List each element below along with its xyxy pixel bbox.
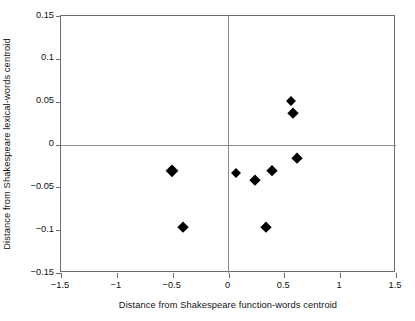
x-axis-title: Distance from Shakespeare function-words… — [60, 300, 396, 310]
x-tick-label: −0.5 — [152, 280, 192, 291]
data-point-marker — [165, 165, 178, 178]
x-tick-mark — [284, 273, 285, 278]
y-tick-label: 0 — [10, 138, 54, 149]
x-tick-label: 0 — [208, 280, 248, 291]
y-tick-label: −0.1 — [10, 224, 54, 235]
data-point-marker — [231, 168, 241, 178]
x-tick-label: 1 — [319, 280, 359, 291]
y-tick-label: 0.05 — [10, 95, 54, 106]
y-tick-mark — [56, 187, 61, 188]
data-point-marker — [250, 174, 261, 185]
y-tick-label: 0.15 — [10, 10, 54, 21]
x-tick-label: −1.5 — [40, 280, 80, 291]
data-point-marker — [177, 221, 188, 232]
plot-area — [60, 15, 395, 272]
x-tick-mark — [117, 273, 118, 278]
y-tick-mark — [56, 145, 61, 146]
x-tick-mark — [229, 273, 230, 278]
x-tick-mark — [340, 273, 341, 278]
x-tick-label: −1 — [96, 280, 136, 291]
y-tick-mark — [56, 230, 61, 231]
zero-line-horizontal — [61, 145, 396, 146]
y-tick-mark — [56, 16, 61, 17]
y-tick-label: 0.1 — [10, 52, 54, 63]
x-tick-label: 0.5 — [263, 280, 303, 291]
x-tick-mark — [173, 273, 174, 278]
cut-off-title-text — [0, 0, 415, 3]
x-tick-mark — [61, 273, 62, 278]
data-point-marker — [288, 107, 299, 118]
y-tick-mark — [56, 102, 61, 103]
y-tick-label: −0.05 — [10, 181, 54, 192]
data-point-marker — [261, 221, 272, 232]
scatter-plot-figure: Distance from Shakespeare lexical-words … — [0, 0, 415, 321]
y-tick-mark — [56, 59, 61, 60]
y-tick-label: −0.15 — [10, 267, 54, 278]
x-tick-label: 1.5 — [375, 280, 415, 291]
data-point-marker — [286, 96, 296, 106]
data-point-marker — [291, 153, 302, 164]
x-tick-mark — [396, 273, 397, 278]
data-point-marker — [266, 165, 278, 177]
